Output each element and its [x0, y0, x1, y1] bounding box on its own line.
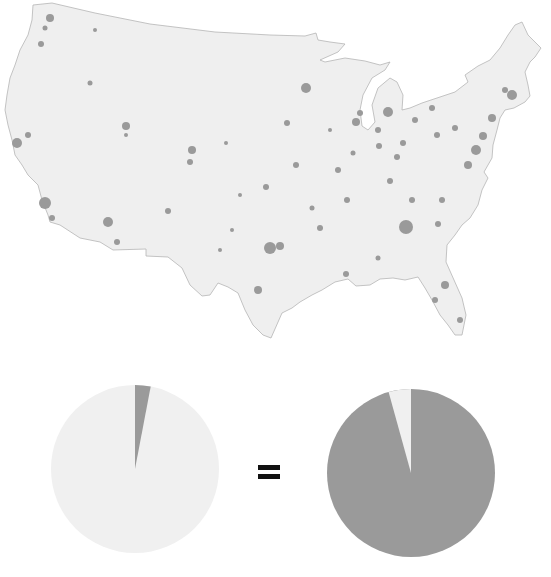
- us-land-shape: [5, 3, 541, 338]
- pie-chart-right: [327, 389, 495, 557]
- equals-bar-bottom: [258, 474, 280, 479]
- equals-bar-top: [258, 465, 280, 470]
- equals-sign: [258, 465, 280, 481]
- us-map: [0, 0, 551, 345]
- pie-chart-left: [51, 385, 219, 553]
